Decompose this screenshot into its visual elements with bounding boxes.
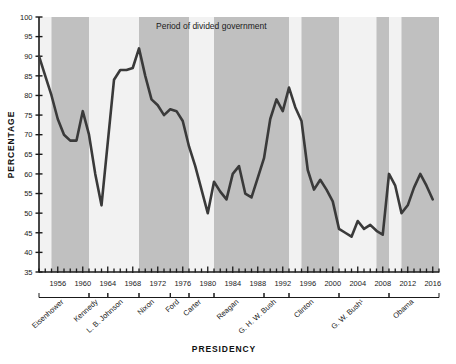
x-tick-label-2000: 2000 [324, 279, 341, 288]
x-tick-label-1964: 1964 [99, 279, 116, 288]
presidency-label-0: Eisenhower [30, 297, 66, 330]
y-tick-label-70: 70 [24, 130, 32, 139]
y-tick-label-90: 90 [24, 52, 32, 61]
presidency-label-7: G. H. W. Bush [237, 297, 278, 335]
presidency-bracket-7 [264, 293, 289, 298]
presidency-label-4: Ford [163, 297, 180, 314]
legend: Period of divided government [140, 20, 267, 31]
y-tick-label-100: 100 [20, 13, 33, 22]
y-tick-label-95: 95 [24, 32, 32, 41]
divided-band-2 [214, 17, 289, 272]
presidency-label-9: G. W. Bush¹ [329, 297, 365, 331]
y-tick-label-50: 50 [24, 209, 32, 218]
presidency-bracket-2 [108, 293, 139, 298]
y-axis-title: PERCENTAGE [6, 111, 16, 178]
legend-swatch-0 [140, 20, 151, 30]
x-tick-label-1960: 1960 [74, 279, 91, 288]
divided-band-0 [52, 17, 90, 272]
x-tick-label-2016: 2016 [424, 279, 441, 288]
y-tick-label-45: 45 [24, 229, 32, 238]
divided-band-1 [139, 17, 189, 272]
presidency-bracket-8 [289, 293, 339, 298]
x-tick-label-2008: 2008 [374, 279, 391, 288]
x-tick-label-2012: 2012 [399, 279, 416, 288]
y-tick-label-80: 80 [24, 91, 32, 100]
presidency-bracket-1 [89, 293, 108, 298]
x-tick-label-1988: 1988 [249, 279, 266, 288]
presidency-bracket-3 [139, 293, 170, 298]
x-tick-label-1968: 1968 [124, 279, 141, 288]
presidency-label-8: Clinton [292, 297, 315, 319]
x-tick-label-1976: 1976 [174, 279, 191, 288]
legend-label-0: Period of divided government [156, 21, 267, 31]
presidency-label-5: Carter [181, 297, 203, 318]
x-tick-label-1996: 1996 [299, 279, 316, 288]
y-tick-label-65: 65 [24, 150, 32, 159]
x-axis-title: PRESIDENCY [192, 344, 256, 354]
presidency-bracket-5 [189, 293, 214, 298]
y-tick-label-35: 35 [24, 268, 32, 277]
y-tick-label-85: 85 [24, 72, 32, 81]
x-tick-label-2004: 2004 [349, 279, 366, 288]
y-tick-label-75: 75 [24, 111, 32, 120]
presidency-bracket-10 [389, 293, 439, 298]
presidency-label-10: Obama [391, 297, 416, 321]
presidency-bracket-6 [214, 293, 264, 298]
x-tick-label-1956: 1956 [49, 279, 66, 288]
chart-svg: 3540455055606570758085909510019561960196… [0, 0, 456, 364]
y-tick-label-55: 55 [24, 189, 32, 198]
presidency-bracket-4 [170, 293, 189, 298]
presidential-success-chart: 3540455055606570758085909510019561960196… [0, 0, 456, 364]
x-tick-label-1992: 1992 [274, 279, 291, 288]
divided-band-5 [402, 17, 440, 272]
x-tick-label-1972: 1972 [149, 279, 166, 288]
divided-band-3 [302, 17, 340, 272]
x-tick-label-1984: 1984 [224, 279, 241, 288]
y-tick-label-40: 40 [24, 248, 32, 257]
presidency-label-6: Reagan [215, 297, 241, 321]
presidency-bracket-0 [39, 293, 89, 298]
y-tick-label-60: 60 [24, 170, 32, 179]
x-tick-label-1980: 1980 [199, 279, 216, 288]
presidency-label-3: Nixon [136, 297, 156, 317]
presidency-bracket-9 [339, 293, 389, 298]
